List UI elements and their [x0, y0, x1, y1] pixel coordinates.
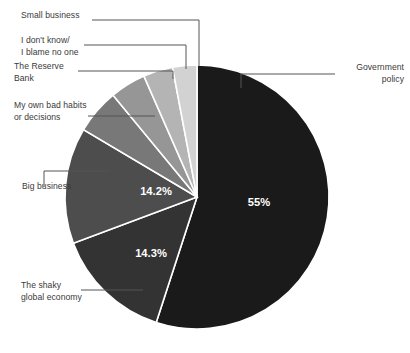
leader-line-small-business	[92, 20, 199, 66]
label-big-business: Big business	[22, 181, 84, 193]
label-reserve-bank: The Reserve Bank	[14, 61, 80, 84]
slice-value-big-business: 14.2%	[140, 185, 172, 197]
slice-value-shaky-global-economy: 14.3%	[135, 247, 167, 259]
label-own-bad-habits: My own bad habits or decisions	[14, 100, 94, 123]
label-shaky-global-economy: The shaky global economy	[21, 280, 99, 303]
label-i-dont-know: I don't know/ I blame no one	[21, 35, 99, 58]
label-small-business: Small business	[21, 10, 93, 22]
slice-value-government-policy: 55%	[248, 196, 270, 208]
label-government-policy: Government policy	[330, 62, 404, 85]
leader-line-i-dont-know	[84, 45, 186, 69]
pie-slices-group	[65, 65, 329, 329]
pie-chart-figure: 55%14.3%14.2% Small business I don't kno…	[0, 0, 410, 353]
